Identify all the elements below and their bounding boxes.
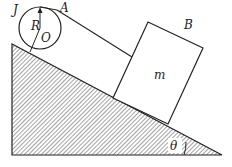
label-O: O: [41, 31, 51, 45]
label-theta: θ: [170, 139, 178, 153]
physics-diagram: J R O A B m θ: [0, 0, 232, 167]
string-segment: [57, 10, 132, 57]
incline-disk-block-figure: J R O A B m θ: [0, 0, 232, 167]
label-B: B: [183, 18, 193, 32]
label-m: m: [154, 68, 165, 82]
label-A: A: [59, 1, 69, 15]
label-J: J: [10, 3, 19, 17]
label-R: R: [30, 19, 40, 33]
